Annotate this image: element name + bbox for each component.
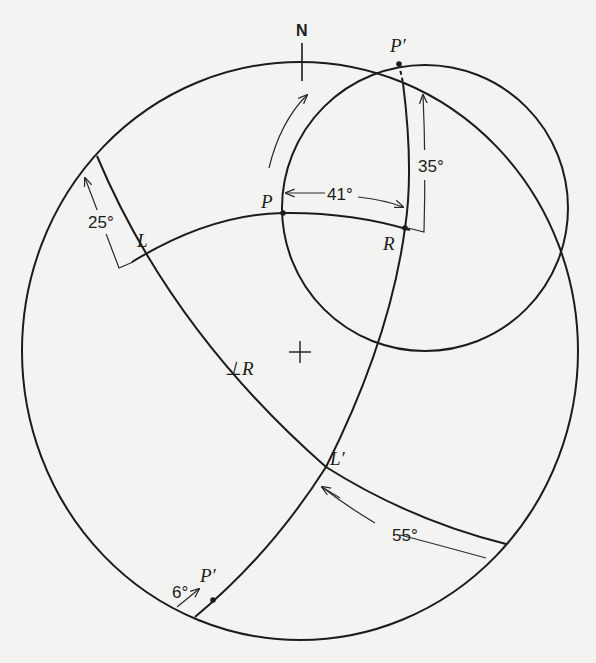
label-L: L: [136, 230, 148, 251]
great-circle-LPR: [132, 213, 410, 262]
point-P-prime-top: [396, 61, 402, 67]
arrow-55: [322, 487, 486, 558]
label-R: R: [382, 233, 395, 254]
point-R: [402, 225, 408, 231]
label-P: P: [260, 191, 273, 212]
stereonet-diagram: N P R L L′ P′ P′ ⊥R 41° 35° 25° 55° 6°: [0, 0, 596, 663]
north-label: N: [296, 22, 308, 39]
center-cross-icon: [289, 341, 311, 363]
point-P-prime-bottom: [210, 597, 216, 603]
angle-6: 6°: [172, 583, 188, 602]
point-P: [280, 210, 286, 216]
angle-35: 35°: [418, 157, 444, 176]
label-P-prime-bottom: P′: [199, 565, 217, 586]
label-P-prime-top: P′: [389, 35, 407, 56]
angle-41: 41°: [327, 185, 353, 204]
arrow-41-right: [358, 197, 403, 207]
angle-55: 55°: [392, 526, 418, 545]
angle-25: 25°: [88, 213, 114, 232]
great-circle-R: [195, 83, 409, 617]
label-perp-R: ⊥R: [225, 358, 254, 379]
label-L-prime: L′: [329, 448, 346, 469]
rotation-arrow: [269, 95, 307, 168]
